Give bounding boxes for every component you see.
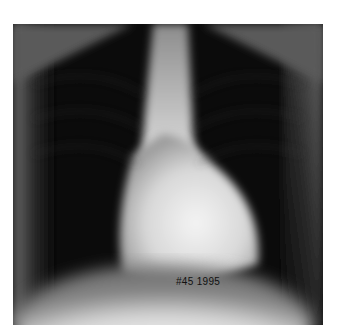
xray-rendering [13, 24, 323, 325]
film-annotation: #45 1995 [176, 276, 220, 287]
chest-xray-image: #45 1995 [13, 24, 323, 325]
